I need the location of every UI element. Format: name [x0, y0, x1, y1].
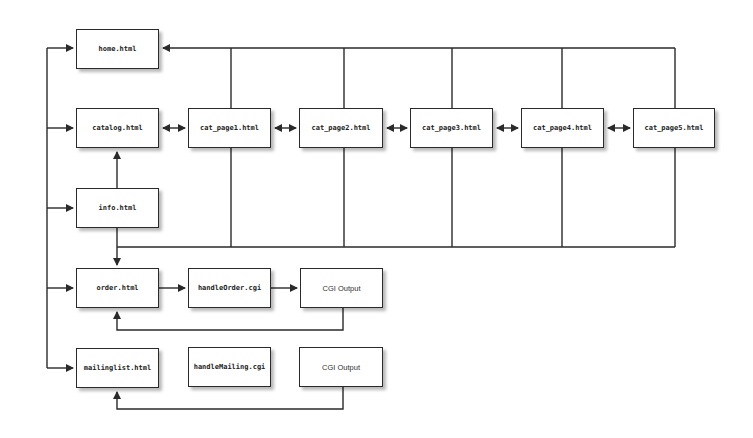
node-label: handleMailing.cgi [194, 363, 266, 371]
node-cat-page4: cat_page4.html [521, 108, 604, 148]
node-handle-mailing-cgi: handleMailing.cgi [188, 347, 271, 387]
node-label: cat_page4.html [533, 124, 592, 132]
node-label: CGI Output [322, 363, 360, 372]
node-label: order.html [96, 284, 138, 292]
node-cat-page5: cat_page5.html [633, 108, 715, 148]
node-label: cat_page1.html [200, 124, 259, 132]
node-cat-page1: cat_page1.html [188, 108, 271, 148]
node-cat-page3: cat_page3.html [410, 108, 493, 148]
node-info-html: info.html [76, 188, 159, 228]
node-label: CGI Output [323, 284, 361, 293]
node-mailinglist-html: mailinglist.html [76, 348, 159, 388]
node-catalog-html: catalog.html [76, 108, 159, 148]
node-label: catalog.html [92, 124, 143, 132]
node-cgi-output-mailing: CGI Output [299, 347, 383, 387]
site-map-diagram: home.html catalog.html cat_page1.html ca… [0, 0, 753, 438]
node-cgi-output-order: CGI Output [300, 268, 383, 308]
node-handle-order-cgi: handleOrder.cgi [188, 268, 271, 308]
node-label: cat_page3.html [422, 124, 481, 132]
node-order-html: order.html [76, 268, 159, 308]
node-label: mailinglist.html [84, 364, 151, 372]
node-cat-page2: cat_page2.html [299, 108, 383, 148]
node-label: info.html [99, 204, 137, 212]
node-label: cat_page2.html [311, 124, 370, 132]
node-label: home.html [99, 45, 137, 53]
node-label: cat_page5.html [644, 124, 703, 132]
node-label: handleOrder.cgi [198, 284, 261, 292]
node-home-html: home.html [76, 29, 159, 69]
